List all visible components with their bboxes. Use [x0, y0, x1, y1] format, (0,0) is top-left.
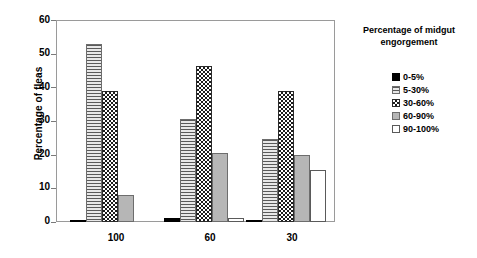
bar-30-0-5 — [246, 220, 262, 222]
legend-swatch-checkerboard-icon — [392, 99, 400, 107]
bar-100-30-60 — [102, 91, 118, 222]
x-tick-label-100: 100 — [86, 232, 146, 243]
legend-item-label: 5-30% — [403, 85, 429, 95]
y-tick-label: 30 — [28, 115, 50, 125]
plot-area — [56, 20, 335, 222]
legend-title: Percentage of midgut engorgement — [344, 24, 474, 48]
legend-swatch-solid-gray-icon — [392, 112, 400, 120]
y-tick-label: 10 — [28, 182, 50, 192]
bar-100-5-30 — [86, 44, 102, 222]
legend-title-line-1: Percentage of midgut — [363, 25, 455, 35]
y-tick-label: 50 — [28, 48, 50, 58]
legend-swatch-white-icon — [392, 125, 400, 133]
legend-item: 90-100% — [392, 122, 477, 135]
bar-30-60-90 — [294, 155, 310, 222]
bar-60-90-100 — [228, 218, 244, 222]
legend-item: 0-5% — [392, 70, 477, 83]
x-tick-label-30: 30 — [262, 232, 322, 243]
legend-item: 5-30% — [392, 83, 477, 96]
legend-item: 30-60% — [392, 96, 477, 109]
bar-30-90-100 — [310, 170, 326, 222]
bar-60-60-90 — [212, 153, 228, 222]
legend-swatch-solid-black-icon — [392, 73, 400, 81]
bar-60-30-60 — [196, 66, 212, 222]
y-tick-mark — [51, 222, 56, 223]
y-tick-label: 0 — [28, 216, 50, 226]
y-tick-label: 20 — [28, 149, 50, 159]
bar-60-5-30 — [180, 119, 196, 222]
legend-item-label: 60-90% — [403, 111, 434, 121]
bar-30-5-30 — [262, 139, 278, 222]
bar-100-60-90 — [118, 195, 134, 222]
legend-item-label: 90-100% — [403, 124, 439, 134]
bar-30-30-60 — [278, 91, 294, 222]
legend-items: 0-5% 5-30% 30-60% 60-90% 90-100% — [392, 70, 477, 135]
y-tick-label: 60 — [28, 15, 50, 25]
y-tick-label: 40 — [28, 82, 50, 92]
legend: Percentage of midgut engorgement 0-5% 5-… — [340, 24, 477, 135]
x-tick-label-60: 60 — [180, 232, 240, 243]
y-axis-tick-labels: 60 50 40 30 20 10 0 — [26, 0, 50, 258]
legend-item-label: 30-60% — [403, 98, 434, 108]
bar-chart-figure: Percentage of fleas 60 50 40 30 20 10 0 — [0, 0, 477, 258]
bar-60-0-5 — [164, 218, 180, 222]
legend-item-label: 0-5% — [403, 72, 424, 82]
legend-swatch-horizontal-lines-icon — [392, 86, 400, 94]
bar-100-0-5 — [70, 220, 86, 222]
legend-item: 60-90% — [392, 109, 477, 122]
legend-title-line-2: engorgement — [380, 37, 437, 47]
